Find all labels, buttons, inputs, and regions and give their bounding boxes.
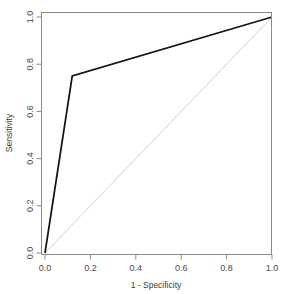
x-tick-label: 0.6 <box>175 263 188 273</box>
roc-chart-svg: 0.00.20.40.60.81.0 0.00.20.40.60.81.0 1 … <box>0 0 292 294</box>
x-tick-label: 0.2 <box>84 263 97 273</box>
x-tick-label: 1.0 <box>266 263 279 273</box>
y-tick-label: 1.0 <box>25 11 35 24</box>
y-tick-label: 0.2 <box>25 200 35 213</box>
y-axis-title: Sensitivity <box>4 113 14 152</box>
y-tick-label: 0.6 <box>25 105 35 118</box>
y-tick-label: 0.8 <box>25 58 35 71</box>
y-tick-label: 0.0 <box>25 247 35 260</box>
roc-plot-container: 0.00.20.40.60.81.0 0.00.20.40.60.81.0 1 … <box>0 0 292 294</box>
chart-background <box>0 0 292 294</box>
x-tick-label: 0.8 <box>220 263 233 273</box>
y-tick-label: 0.4 <box>25 152 35 165</box>
x-axis-title: 1 - Specificity <box>131 280 182 290</box>
x-tick-label: 0.4 <box>130 263 143 273</box>
x-tick-label: 0.0 <box>39 263 52 273</box>
